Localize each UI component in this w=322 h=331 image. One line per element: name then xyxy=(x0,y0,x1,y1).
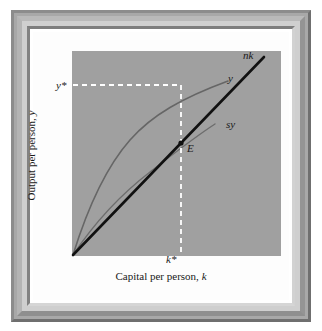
y-axis-title-text: Output per person, xyxy=(25,115,37,200)
series-label-sy: sy xyxy=(226,119,235,130)
picture-frame-inner-bevel xyxy=(27,26,295,306)
series-label-y: y xyxy=(228,73,233,84)
x-axis-title: Capital per person, k xyxy=(0,271,322,282)
equilibrium-label: E xyxy=(187,143,194,154)
series-label-nk: nk xyxy=(243,50,253,61)
x-axis-tick-k-star: k* xyxy=(166,254,176,265)
x-axis-title-text: Capital per person, xyxy=(115,270,201,282)
y-axis-title: Output per person, y xyxy=(26,61,37,251)
figure-root: nk y sy E y* k* Capital per person, k Ou… xyxy=(0,0,322,331)
y-axis-title-variable: y xyxy=(25,111,37,116)
x-axis-title-variable: k xyxy=(202,270,207,282)
figure-paper xyxy=(33,32,289,300)
y-axis-tick-y-star: y* xyxy=(56,80,66,91)
